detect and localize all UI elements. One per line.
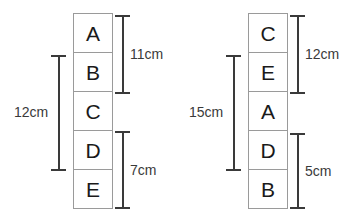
dimension-line <box>58 55 60 171</box>
left-dimension-bar-11cm <box>115 15 130 94</box>
dimension-cap-bottom <box>51 169 66 171</box>
left-dimension-bar-12cm <box>51 55 66 171</box>
dimension-cap-bottom <box>226 169 241 171</box>
left-dimension-label-11cm: 11cm <box>130 47 163 61</box>
dimension-line <box>297 15 299 94</box>
left-dimension-label-12cm: 12cm <box>14 105 48 119</box>
left-block-4: D <box>74 131 112 170</box>
dimension-cap-bottom <box>290 92 305 94</box>
dimension-line <box>122 131 124 209</box>
right-dimension-bar-15cm <box>226 55 241 171</box>
right-dimension-bar-12cm <box>290 15 305 94</box>
right-block-2: E <box>249 53 287 92</box>
left-block-1: A <box>74 14 112 53</box>
right-block-5: B <box>249 170 287 208</box>
dimension-line <box>122 15 124 94</box>
right-dimension-label-15cm: 15cm <box>189 105 223 119</box>
left-dimension-label-7cm: 7cm <box>130 163 156 177</box>
left-block-3: C <box>74 92 112 131</box>
left-block-stack: A B C D E <box>73 13 113 209</box>
dimension-line <box>233 55 235 171</box>
left-block-2: B <box>74 53 112 92</box>
left-block-5: E <box>74 170 112 208</box>
right-block-stack: C E A D B <box>248 13 288 209</box>
right-dimension-label-12cm: 12cm <box>305 47 339 61</box>
block-stack-diagram: A B C D E 12cm 11cm 7cm C E A D B 15cm <box>0 0 358 224</box>
left-dimension-bar-7cm <box>115 131 130 209</box>
right-dimension-label-5cm: 5cm <box>305 164 331 178</box>
right-block-3: A <box>249 92 287 131</box>
right-dimension-bar-5cm <box>290 133 305 209</box>
dimension-cap-bottom <box>115 207 130 209</box>
dimension-cap-bottom <box>115 92 130 94</box>
dimension-line <box>297 133 299 209</box>
dimension-cap-bottom <box>290 207 305 209</box>
right-block-4: D <box>249 131 287 170</box>
right-block-1: C <box>249 14 287 53</box>
